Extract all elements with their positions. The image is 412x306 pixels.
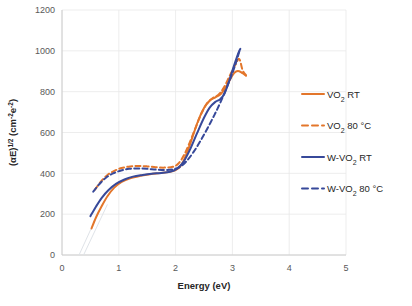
y-axis-title-text: (αE)1/2 (cm-2e-2) — [7, 99, 19, 166]
extrapolation-line — [84, 204, 108, 255]
x-tick-label: 5 — [343, 263, 348, 273]
legend-label-3: W-VO2 80 °C — [327, 183, 383, 197]
line-chart: 020040060080010001200 012345 (αE)1/2 (cm… — [0, 0, 412, 306]
y-tick-label: 0 — [50, 250, 55, 260]
x-tick-label: 1 — [116, 263, 121, 273]
y-tick-label: 1000 — [35, 46, 55, 56]
legend-label-1: VO2 80 °C — [327, 120, 371, 134]
data-series — [90, 49, 246, 229]
x-axis-tick-labels: 012345 — [59, 263, 348, 273]
y-axis-tick-labels: 020040060080010001200 — [35, 5, 55, 260]
x-tick-label: 0 — [59, 263, 64, 273]
x-axis-title: Energy (eV) — [178, 280, 231, 291]
y-tick-label: 400 — [40, 169, 55, 179]
y-axis-title: (αE)1/2 (cm-2e-2) — [7, 99, 19, 166]
x-tick-label: 3 — [230, 263, 235, 273]
x-tick-label: 2 — [173, 263, 178, 273]
x-axis-title-text: Energy (eV) — [178, 280, 231, 291]
legend: VO2 RTVO2 80 °CW-VO2 RTW-VO2 80 °C — [302, 89, 383, 197]
x-tick-label: 4 — [287, 263, 292, 273]
chart-container: 020040060080010001200 012345 (αE)1/2 (cm… — [0, 0, 412, 306]
y-tick-label: 1200 — [35, 5, 55, 15]
y-tick-label: 600 — [40, 128, 55, 138]
grid-lines — [62, 10, 346, 255]
legend-label-0: VO2 RT — [327, 89, 360, 103]
y-tick-label: 200 — [40, 209, 55, 219]
y-tick-label: 800 — [40, 87, 55, 97]
legend-label-2: W-VO2 RT — [327, 152, 372, 166]
